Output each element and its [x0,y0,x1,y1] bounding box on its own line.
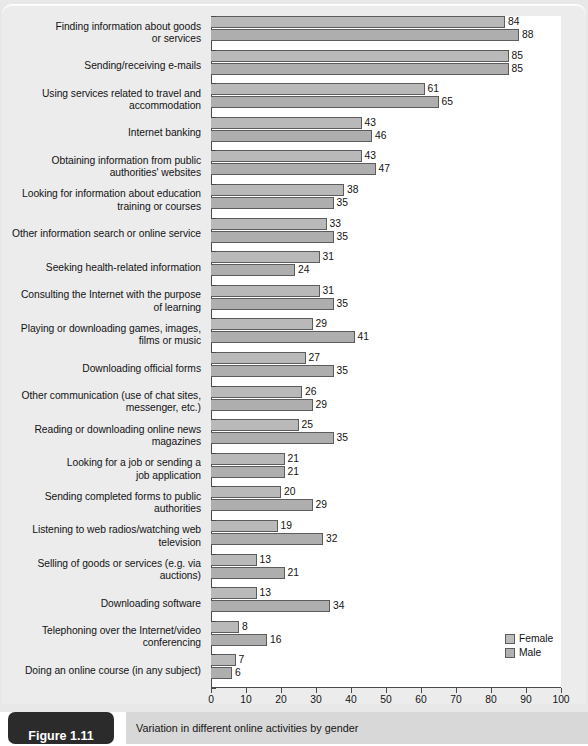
bar-male[interactable] [211,264,295,276]
chart-row: Playing or downloading games, images,fil… [0,318,588,352]
bar-line: 21 [211,466,588,478]
y-tick [211,486,216,487]
bar-value-label: 21 [288,466,299,478]
legend-item-male[interactable]: Male [505,647,553,658]
legend-item-female[interactable]: Female [505,633,553,644]
y-tick [211,150,216,151]
bar-female[interactable] [211,621,239,633]
category-label-line: accommodation [0,100,201,112]
chart-row: Consulting the Internet with the purpose… [0,285,588,319]
x-tick-label: 0 [208,694,214,705]
bar-group: 1334 [207,587,588,621]
x-tick-label: 30 [310,694,321,705]
bar-female[interactable] [211,50,509,62]
bar-male[interactable] [211,298,334,310]
bar-group: 1932 [207,520,588,554]
bar-male[interactable] [211,432,334,444]
bar-female[interactable] [211,318,313,330]
bar-value-label: 29 [316,399,327,411]
bar-female[interactable] [211,251,320,263]
category-label: Telephoning over the Internet/videoconfe… [0,625,207,650]
bar-female[interactable] [211,218,327,230]
x-tick [281,688,282,693]
bar-female[interactable] [211,117,362,129]
bar-line: 13 [211,587,588,599]
bar-male[interactable] [211,634,267,646]
bar-value-label: 46 [375,130,386,142]
bar-male[interactable] [211,29,519,41]
bar-male[interactable] [211,499,313,511]
bar-line: 13 [211,554,588,566]
bar-male[interactable] [211,600,330,612]
x-tick-label: 90 [520,694,531,705]
bar-female[interactable] [211,285,320,297]
bar-female[interactable] [211,150,362,162]
bar-female[interactable] [211,184,344,196]
bar-female[interactable] [211,419,299,431]
bar-female[interactable] [211,486,281,498]
bar-male[interactable] [211,130,372,142]
y-tick [211,386,216,387]
bar-group: 4346 [207,117,588,151]
bar-group: 3335 [207,218,588,252]
category-label-line: television [0,537,201,549]
y-tick [211,554,216,555]
bar-female[interactable] [211,83,425,95]
y-tick [211,587,216,588]
bar-female[interactable] [211,352,306,364]
bar-male[interactable] [211,63,509,75]
bar-female[interactable] [211,386,302,398]
x-tick [491,688,492,693]
bar-value-label: 35 [337,197,348,209]
y-tick [211,621,216,622]
bar-male[interactable] [211,466,285,478]
bar-line: 26 [211,386,588,398]
y-tick [211,318,216,319]
chart-row: Sending completed forms to publicauthori… [0,486,588,520]
bar-male[interactable] [211,365,334,377]
bar-female[interactable] [211,453,285,465]
category-label: Doing an online course (in any subject) [0,665,207,677]
category-label-line: Obtaining information from public [0,155,201,167]
bar-group: 3124 [207,251,588,285]
category-label: Downloading official forms [0,363,207,375]
bar-value-label: 65 [442,96,453,108]
bar-group: 6165 [207,83,588,117]
category-label-line: auctions) [0,570,201,582]
bar-line: 29 [211,399,588,411]
bar-group: 3835 [207,184,588,218]
bar-male[interactable] [211,533,323,545]
bar-female[interactable] [211,554,257,566]
bar-group: 2735 [207,352,588,386]
bar-female[interactable] [211,16,505,28]
bar-female[interactable] [211,520,278,532]
bar-value-label: 35 [337,298,348,310]
chart-row: Finding information about goodsor servic… [0,16,588,50]
bar-line: 31 [211,251,588,263]
category-label: Reading or downloading online newsmagazi… [0,424,207,449]
bar-male[interactable] [211,231,334,243]
bar-male[interactable] [211,399,313,411]
bar-male[interactable] [211,567,285,579]
bar-male[interactable] [211,331,355,343]
bar-value-label: 84 [508,16,519,28]
bar-female[interactable] [211,654,236,666]
bar-line: 21 [211,567,588,579]
bar-male[interactable] [211,667,232,679]
bar-line: 34 [211,600,588,612]
bar-male[interactable] [211,197,334,209]
chart-row: Telephoning over the Internet/videoconfe… [0,621,588,655]
bar-value-label: 29 [316,499,327,511]
category-label: Sending completed forms to publicauthori… [0,491,207,516]
bar-female[interactable] [211,587,257,599]
bar-value-label: 16 [270,634,281,646]
x-tick-label: 60 [415,694,426,705]
category-label: Other communication (use of chat sites,m… [0,390,207,415]
bar-line: 85 [211,50,588,62]
chart-row: Downloading official forms2735 [0,352,588,386]
bar-male[interactable] [211,163,376,175]
bar-line: 61 [211,83,588,95]
category-label-line: messenger, etc.) [0,402,201,414]
bar-male[interactable] [211,96,439,108]
chart-row: Using services related to travel andacco… [0,83,588,117]
